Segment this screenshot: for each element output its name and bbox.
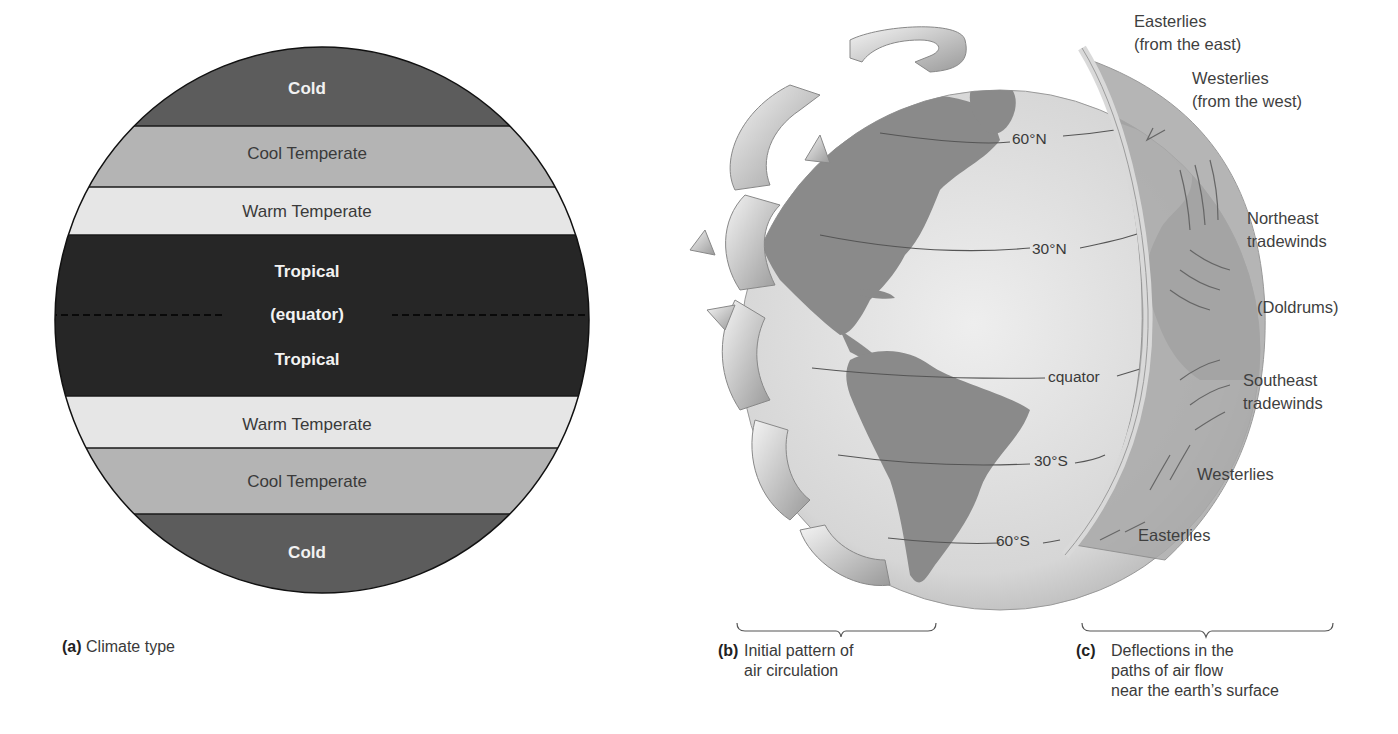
band-label: Cold — [288, 543, 326, 562]
wind-label-westerlies-north: Westerlies (from the west) — [1192, 67, 1302, 113]
band-label: Tropical — [274, 262, 339, 281]
latitude-label-60n: 60°N — [1012, 130, 1047, 147]
latitude-label-60s: 60°S — [996, 532, 1030, 549]
latitude-label-equator: cquator — [1048, 368, 1100, 385]
caption-a: (a) Climate type — [62, 637, 175, 657]
globe: 60°N 30°N cquator 30°S 60°S — [690, 27, 1265, 610]
caption-c: (c) Deflections in the paths of air flow… — [1076, 641, 1279, 701]
band-label: Warm Temperate — [242, 415, 371, 434]
band-label: Tropical — [274, 350, 339, 369]
wind-label-northeast-tradewinds: Northeast tradewinds — [1247, 207, 1327, 253]
band-label: Cold — [288, 79, 326, 98]
band-cold-south — [50, 514, 610, 604]
wind-label-westerlies-south: Westerlies — [1197, 463, 1274, 486]
wind-label-easterlies-north: Easterlies (from the east) — [1134, 10, 1241, 56]
caption-b: (b) Initial pattern of air circulation — [718, 641, 853, 681]
band-label: (equator) — [270, 305, 344, 324]
brace-c — [1082, 623, 1333, 637]
band-label: Warm Temperate — [242, 202, 371, 221]
band-label: Cool Temperate — [247, 144, 367, 163]
caption-a-text: Climate type — [86, 638, 175, 655]
caption-c-letter: (c) — [1076, 641, 1096, 661]
latitude-label-30n: 30°N — [1032, 240, 1067, 257]
band-label: Cool Temperate — [247, 472, 367, 491]
diagram-canvas: Cold Cool Temperate Warm Temperate Tropi… — [0, 0, 1398, 734]
wind-label-doldrums: (Doldrums) — [1257, 296, 1339, 319]
caption-b-letter: (b) — [718, 641, 738, 661]
wind-label-southeast-tradewinds: Southeast tradewinds — [1243, 369, 1323, 415]
band-cold-north — [50, 40, 610, 126]
brace-b — [737, 623, 936, 637]
caption-a-letter: (a) — [62, 638, 82, 655]
wind-label-easterlies-south: Easterlies — [1138, 524, 1210, 547]
latitude-label-30s: 30°S — [1034, 452, 1068, 469]
